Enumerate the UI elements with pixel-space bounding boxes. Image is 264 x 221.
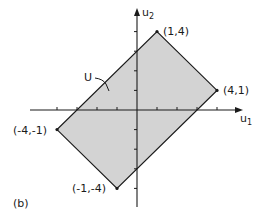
u2-axis-label: u2 [142, 6, 154, 21]
diagram-figure: U (1,4) (4,1) (-1,-4) (-4,-1) u1 u2 (b) [0, 0, 264, 221]
vertex-label-neg1-neg4: (-1,-4) [72, 182, 106, 195]
u1-axis-label: u1 [240, 112, 252, 127]
diagram-canvas: U (1,4) (4,1) (-1,-4) (-4,-1) u1 u2 (b) [0, 0, 264, 221]
vertex-label-neg4-neg1: (-4,-1) [13, 124, 47, 137]
region-u-label: U [84, 71, 92, 84]
vertex-label-1-4: (1,4) [163, 25, 189, 38]
panel-label: (b) [13, 197, 29, 210]
u2-axis-arrow-icon [134, 8, 140, 16]
vertex-label-4-1: (4,1) [223, 84, 249, 97]
